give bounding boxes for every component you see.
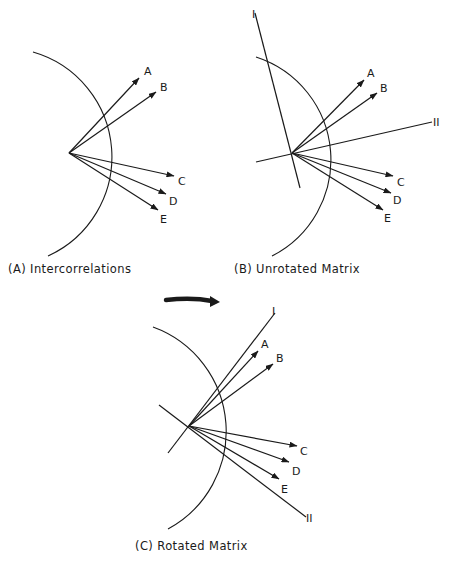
vector-label: E bbox=[281, 483, 288, 496]
variable-vector-A bbox=[69, 78, 139, 153]
variable-vector-A bbox=[189, 351, 258, 426]
vector-label: C bbox=[397, 176, 405, 189]
factor-axis-label: II bbox=[433, 116, 440, 129]
factor-axis-label: I bbox=[272, 305, 275, 318]
factor-axis-II bbox=[159, 405, 306, 517]
variable-vector-A bbox=[292, 80, 364, 153]
vector-label: D bbox=[292, 465, 300, 478]
factor-axis-I bbox=[255, 13, 300, 188]
variable-vector-D bbox=[69, 153, 166, 194]
vector-label: E bbox=[384, 212, 391, 225]
unit-circle-arc bbox=[256, 57, 331, 256]
variable-vector-B bbox=[189, 364, 273, 426]
factor-axis-label: I bbox=[252, 8, 255, 21]
vector-label: C bbox=[300, 445, 308, 458]
factor-axis-label: II bbox=[306, 512, 313, 525]
panel-caption: (C) Rotated Matrix bbox=[135, 539, 248, 553]
vector-label: B bbox=[380, 82, 388, 95]
vector-label: B bbox=[160, 81, 168, 94]
variable-vector-E bbox=[69, 153, 158, 210]
vector-label: D bbox=[169, 195, 177, 208]
panel-caption: (A) Intercorrelations bbox=[8, 262, 131, 276]
panel-rotated-matrix: IIIABCDE(C) Rotated Matrix bbox=[135, 305, 313, 553]
vector-label: A bbox=[261, 338, 269, 351]
factor-axis-II bbox=[256, 122, 432, 162]
variable-vector-C bbox=[292, 153, 393, 176]
variable-vector-E bbox=[292, 153, 383, 210]
variable-vector-B bbox=[69, 92, 156, 153]
vector-label: C bbox=[178, 175, 186, 188]
panel-intercorrelations: ABCDE(A) Intercorrelations bbox=[8, 52, 186, 276]
panel-unrotated-matrix: IIIABCDE(B) Unrotated Matrix bbox=[234, 8, 440, 276]
variable-vector-D bbox=[292, 153, 391, 193]
panel-caption: (B) Unrotated Matrix bbox=[234, 262, 360, 276]
vector-label: B bbox=[276, 352, 284, 365]
variable-vector-C bbox=[69, 153, 174, 176]
vector-label: D bbox=[393, 194, 401, 207]
vector-label: E bbox=[160, 213, 167, 226]
rotation-arrow-icon bbox=[166, 296, 220, 307]
vector-label: A bbox=[144, 65, 152, 78]
variable-vector-D bbox=[189, 426, 289, 462]
vector-label: A bbox=[367, 67, 375, 80]
factor-rotation-figure: ABCDE(A) Intercorrelations IIIABCDE(B) U… bbox=[0, 0, 452, 563]
